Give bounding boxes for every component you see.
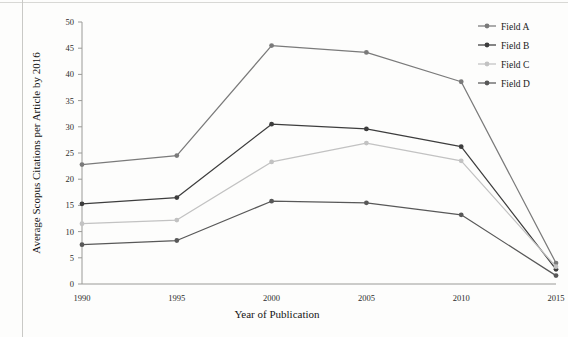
legend-label: Field B <box>501 41 529 51</box>
legend-swatch-marker <box>485 43 490 48</box>
data-point <box>364 126 369 131</box>
legend-swatch-marker <box>485 81 490 86</box>
data-point <box>174 195 179 200</box>
data-point <box>459 158 464 163</box>
data-point <box>174 218 179 223</box>
x-tick-label: 2015 <box>548 293 565 303</box>
x-tick-label: 1995 <box>168 293 185 303</box>
x-tick-label: 1990 <box>74 293 91 303</box>
data-point <box>459 144 464 149</box>
series-field-c <box>80 141 559 269</box>
data-point <box>269 122 274 127</box>
y-tick-label: 45 <box>66 43 75 53</box>
data-point <box>80 242 85 247</box>
legend-label: Field D <box>501 79 530 89</box>
x-tick-label: 2000 <box>263 293 280 303</box>
data-point <box>269 160 274 165</box>
x-tick-label: 2010 <box>453 293 470 303</box>
y-tick-label: 5 <box>70 253 74 263</box>
x-tick-labels: 199019952000200520102015 <box>74 293 565 303</box>
y-tick-label: 10 <box>66 227 75 237</box>
data-point <box>364 50 369 55</box>
data-point <box>80 162 85 167</box>
y-axis: 05101520253035404550 Average Scopus Cita… <box>30 17 82 289</box>
y-tick-label: 40 <box>66 69 75 79</box>
data-point <box>364 200 369 205</box>
x-tick-label: 2005 <box>358 293 375 303</box>
data-point <box>174 153 179 158</box>
y-tick-label: 35 <box>66 96 75 106</box>
y-axis-title: Average Scopus Citations per Article by … <box>30 52 42 254</box>
legend-swatch-marker <box>485 24 490 29</box>
data-point <box>459 212 464 217</box>
legend-item-field-c[interactable]: Field C <box>478 60 529 70</box>
y-tick-label: 50 <box>66 17 75 27</box>
y-tick-label: 0 <box>70 279 74 289</box>
line-chart: 05101520253035404550 Average Scopus Cita… <box>0 0 568 337</box>
series-group <box>80 43 559 278</box>
legend-swatch-marker <box>485 62 490 67</box>
data-point <box>554 273 559 278</box>
x-axis-title: Year of Publication <box>234 308 320 320</box>
y-tick-label: 30 <box>66 122 75 132</box>
data-point <box>80 221 85 226</box>
series-field-d <box>80 199 559 278</box>
y-tick-label: 25 <box>66 148 75 158</box>
series-field-a <box>80 43 559 265</box>
y-tick-labels: 05101520253035404550 <box>66 17 75 289</box>
legend-item-field-a[interactable]: Field A <box>478 22 529 32</box>
data-point <box>80 201 85 206</box>
legend: Field AField BField CField D <box>478 22 530 89</box>
x-axis: 199019952000200520102015 Year of Publica… <box>74 284 565 320</box>
series-field-b <box>80 122 559 272</box>
data-point <box>364 141 369 146</box>
series-line <box>82 143 556 267</box>
data-point <box>554 264 559 269</box>
data-point <box>269 199 274 204</box>
legend-label: Field C <box>501 60 529 70</box>
legend-label: Field A <box>501 22 529 32</box>
chart-figure: 05101520253035404550 Average Scopus Cita… <box>0 0 568 337</box>
series-line <box>82 124 556 269</box>
legend-item-field-b[interactable]: Field B <box>478 41 529 51</box>
series-line <box>82 201 556 275</box>
y-tick-label: 15 <box>66 200 75 210</box>
data-point <box>174 238 179 243</box>
legend-item-field-d[interactable]: Field D <box>478 79 530 89</box>
y-tick-label: 20 <box>66 174 75 184</box>
data-point <box>459 79 464 84</box>
data-point <box>269 43 274 48</box>
